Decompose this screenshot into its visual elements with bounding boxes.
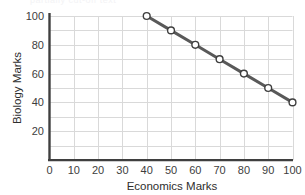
x-tick-label-70: 70: [213, 164, 225, 176]
x-tick-label-60: 60: [189, 164, 201, 176]
x-axis-tick-labels: 0102030405060708090100: [46, 164, 301, 176]
data-point-60-80: [192, 41, 199, 48]
data-point-90-50: [265, 85, 272, 92]
y-axis-title: Biology Marks: [11, 52, 23, 124]
data-point-80-60: [241, 70, 248, 77]
x-tick-label-30: 30: [116, 164, 128, 176]
x-tick-label-50: 50: [165, 164, 177, 176]
x-tick-label-100: 100: [283, 164, 301, 176]
data-point-100-40: [289, 99, 296, 106]
x-tick-label-40: 40: [141, 164, 153, 176]
x-tick-label-20: 20: [92, 164, 104, 176]
x-tick-label-90: 90: [262, 164, 274, 176]
line-chart: 20406080100 0102030405060708090100 Biolo…: [0, 0, 305, 195]
x-tick-label-0: 0: [46, 164, 52, 176]
data-point-40-100: [143, 13, 150, 20]
data-point-70-70: [216, 56, 223, 63]
y-tick-label-20: 20: [32, 125, 44, 137]
y-tick-label-40: 40: [32, 96, 44, 108]
x-axis-title: Economics Marks: [127, 180, 218, 192]
x-tick-label-10: 10: [68, 164, 80, 176]
y-tick-label-80: 80: [32, 39, 44, 51]
data-point-50-90: [168, 27, 175, 34]
y-axis-tick-labels: 20406080100: [26, 10, 44, 137]
y-tick-label-100: 100: [26, 10, 44, 22]
y-tick-label-60: 60: [32, 68, 44, 80]
chart-container: partially cut-off text 20406080100 01020…: [0, 0, 305, 195]
x-tick-label-80: 80: [238, 164, 250, 176]
